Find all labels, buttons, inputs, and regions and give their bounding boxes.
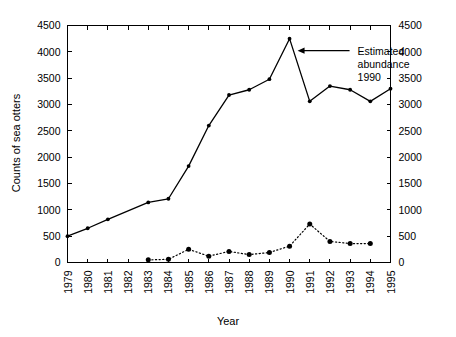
y-left-tick-label: 500 <box>43 230 61 242</box>
x-axis-tick-label: 1988 <box>243 270 255 294</box>
data-point-secondary-counts <box>206 254 211 259</box>
x-axis-tick-label: 1982 <box>122 270 134 294</box>
x-axis-tick-label: 1979 <box>62 270 74 294</box>
x-axis-tick-label: 1990 <box>284 270 296 294</box>
y-right-tick-label: 1000 <box>399 204 423 216</box>
series-line-counts-of-sea-otters <box>68 39 391 237</box>
y-right-tick-label: 3500 <box>399 72 423 84</box>
data-point-counts-of-sea-otters <box>106 217 110 221</box>
data-point-counts-of-sea-otters <box>187 164 191 168</box>
plot-frame <box>68 26 391 263</box>
x-axis-tick-label: 1987 <box>223 270 235 294</box>
x-axis-bottom: 1979198019811982198319841985198619871988… <box>62 259 397 294</box>
x-axis-tick-label: 1992 <box>324 270 336 294</box>
x-axis-tick-label: 1986 <box>203 270 215 294</box>
data-series-group <box>66 37 393 263</box>
data-point-secondary-counts <box>247 252 252 257</box>
y-left-tick-label: 2500 <box>37 125 61 137</box>
data-point-counts-of-sea-otters <box>267 77 271 81</box>
x-axis-tick-label: 1981 <box>102 270 114 294</box>
x-axis-tick-label: 1983 <box>142 270 154 294</box>
y-left-tick-label: 4000 <box>37 46 61 58</box>
annotation-arrow-head <box>298 47 305 53</box>
data-point-counts-of-sea-otters <box>227 93 231 97</box>
annotation-text-line: abundance <box>358 58 410 70</box>
y-right-tick-label: 500 <box>399 230 417 242</box>
y-left-tick-label: 1000 <box>37 204 61 216</box>
data-point-secondary-counts <box>227 249 232 254</box>
y-left-tick-label: 0 <box>55 256 61 268</box>
y-axis-left: 050010001500200025003000350040004500 <box>37 19 71 268</box>
data-point-secondary-counts <box>348 241 353 246</box>
x-axis-tick-label: 1985 <box>183 270 195 294</box>
annotation-group: Estimatedabundance1990 <box>298 45 410 83</box>
data-point-secondary-counts <box>368 241 373 246</box>
data-point-secondary-counts <box>287 244 292 249</box>
data-point-secondary-counts <box>267 250 272 255</box>
data-point-counts-of-sea-otters <box>348 88 352 92</box>
y-right-tick-label: 2500 <box>399 125 423 137</box>
sea-otter-counts-line-chart: 050010001500200025003000350040004500 050… <box>0 0 456 337</box>
y-right-tick-label: 3000 <box>399 98 423 110</box>
data-point-counts-of-sea-otters <box>389 87 393 91</box>
x-axis-title: Year <box>217 315 240 327</box>
data-point-counts-of-sea-otters <box>207 124 211 128</box>
y-right-tick-label: 2000 <box>399 151 423 163</box>
data-point-counts-of-sea-otters <box>368 99 372 103</box>
x-axis-tick-label: 1989 <box>263 270 275 294</box>
annotation-text-line: 1990 <box>358 71 382 83</box>
y-right-tick-label: 0 <box>399 256 405 268</box>
data-point-counts-of-sea-otters <box>308 99 312 103</box>
y-left-tick-label: 4500 <box>37 19 61 31</box>
x-axis-tick-label: 1991 <box>304 270 316 294</box>
data-point-secondary-counts <box>166 257 171 262</box>
y-left-tick-label: 3000 <box>37 98 61 110</box>
data-point-counts-of-sea-otters <box>247 88 251 92</box>
y-left-tick-label: 2000 <box>37 151 61 163</box>
data-point-counts-of-sea-otters <box>146 201 150 205</box>
y-right-tick-label: 1500 <box>399 177 423 189</box>
data-point-counts-of-sea-otters <box>86 226 90 230</box>
y-left-tick-label: 3500 <box>37 72 61 84</box>
data-point-counts-of-sea-otters <box>288 37 292 41</box>
y-axis-title: Counts of sea otters <box>10 93 22 192</box>
chart-figure: 050010001500200025003000350040004500 050… <box>0 0 456 337</box>
data-point-counts-of-sea-otters <box>328 84 332 88</box>
data-point-secondary-counts <box>307 222 312 227</box>
data-point-secondary-counts <box>327 239 332 244</box>
x-axis-tick-label: 1993 <box>344 270 356 294</box>
x-axis-tick-label: 1994 <box>364 270 376 294</box>
y-left-tick-label: 1500 <box>37 177 61 189</box>
x-axis-tick-label: 1980 <box>82 270 94 294</box>
annotation-text-line: Estimated <box>358 45 405 57</box>
y-right-tick-label: 4500 <box>399 19 423 31</box>
series-line-secondary-counts <box>148 224 370 260</box>
data-point-secondary-counts <box>186 247 191 252</box>
data-point-counts-of-sea-otters <box>66 234 70 238</box>
data-point-counts-of-sea-otters <box>167 197 171 201</box>
x-axis-tick-label: 1995 <box>385 270 397 294</box>
x-axis-tick-label: 1984 <box>162 270 174 294</box>
x-axis-top-ticks <box>68 26 391 30</box>
data-point-secondary-counts <box>146 257 151 262</box>
